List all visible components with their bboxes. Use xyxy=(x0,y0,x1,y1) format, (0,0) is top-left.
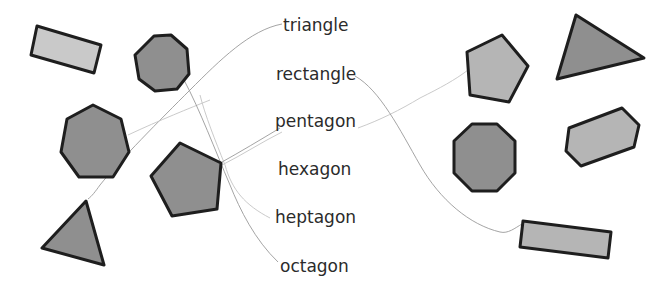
left-octagon-shape[interactable] xyxy=(135,35,189,91)
left-heptagon-shape[interactable] xyxy=(61,105,129,177)
left-pentagon-shape[interactable] xyxy=(151,143,221,216)
right-rectangle-shape[interactable] xyxy=(520,221,611,258)
label-rectangle[interactable]: rectangle xyxy=(276,66,356,83)
left-triangle-shape[interactable] xyxy=(42,201,104,265)
right-pentagon-shape[interactable] xyxy=(467,35,528,102)
right-triangle-shape[interactable] xyxy=(557,15,644,79)
matching-worksheet xyxy=(0,0,667,283)
connector-pentagon-right[interactable] xyxy=(358,70,468,128)
left-rectangle-shape[interactable] xyxy=(31,26,101,73)
label-octagon[interactable]: octagon xyxy=(280,258,349,275)
label-heptagon[interactable]: heptagon xyxy=(275,209,356,226)
label-pentagon[interactable]: pentagon xyxy=(275,113,356,130)
right-hexagon-shape[interactable] xyxy=(566,108,639,166)
label-hexagon[interactable]: hexagon xyxy=(278,161,351,178)
connector-heptagon[interactable] xyxy=(128,100,210,135)
connector-pentagon-left[interactable] xyxy=(222,128,280,162)
connector-pentagon-left-2[interactable] xyxy=(222,132,282,165)
label-triangle[interactable]: triangle xyxy=(283,17,349,34)
right-octagon-shape[interactable] xyxy=(454,124,515,191)
